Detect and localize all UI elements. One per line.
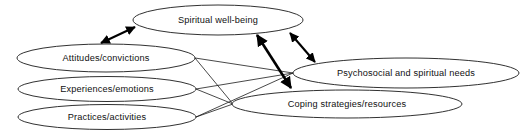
link-experiences-to-needs (196, 73, 293, 89)
link-attitudes-to-coping (195, 58, 233, 104)
node-label-spiritual-well-being: Spiritual well-being (178, 15, 258, 25)
double-arrow-wellbeing-coping-icon (257, 35, 291, 88)
double-arrow-wellbeing-needs-icon (290, 33, 315, 62)
node-practices-activities[interactable]: Practices/activities (18, 105, 196, 130)
node-experiences-emotions[interactable]: Experiences/emotions (18, 77, 196, 102)
node-spiritual-well-being[interactable]: Spiritual well-being (133, 5, 303, 35)
node-psychosocial-spiritual-needs[interactable]: Psychosocial and spiritual needs (293, 58, 519, 88)
double-arrow-attitudes-wellbeing-icon (101, 27, 135, 43)
node-label-experiences-emotions: Experiences/emotions (60, 84, 154, 94)
node-label-psychosocial-spiritual-needs: Psychosocial and spiritual needs (337, 68, 475, 78)
link-practices-to-coping (196, 104, 233, 117)
node-label-coping-strategies-resources: Coping strategies/resources (288, 99, 407, 109)
link-experiences-to-coping (196, 89, 233, 104)
diagram-container: Spiritual well-being Attitudes/convictio… (0, 0, 526, 133)
node-label-practices-activities: Practices/activities (68, 112, 147, 122)
node-coping-strategies-resources[interactable]: Coping strategies/resources (232, 90, 462, 118)
concept-diagram: Spiritual well-being Attitudes/convictio… (0, 0, 526, 133)
node-label-attitudes-convictions: Attitudes/convictions (63, 53, 150, 63)
node-attitudes-convictions[interactable]: Attitudes/convictions (17, 44, 195, 72)
link-attitudes-to-needs (195, 58, 293, 73)
